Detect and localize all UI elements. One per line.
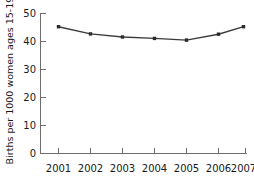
data-point-2006 xyxy=(217,33,220,36)
data-line-series-0 xyxy=(59,27,244,40)
x-tick-label-2003: 2003 xyxy=(110,163,135,174)
data-point-2002 xyxy=(89,32,92,35)
data-point-2001 xyxy=(57,25,60,28)
y-axis-ticks xyxy=(41,14,46,126)
data-point-2003 xyxy=(121,35,124,38)
x-tick-label-2006: 2006 xyxy=(206,163,231,174)
x-tick-label-2002: 2002 xyxy=(78,163,103,174)
y-tick-label-20: 20 xyxy=(23,92,36,103)
y-tick-label-0: 0 xyxy=(30,148,36,159)
data-point-2007 xyxy=(242,25,245,28)
x-tick-label-2001: 2001 xyxy=(46,163,71,174)
x-tick-label-2007: 2007 xyxy=(231,163,254,174)
x-axis-ticks xyxy=(59,148,246,153)
y-tick-label-30: 30 xyxy=(23,64,36,75)
chart-container: Births per 1000 women ages 15-19 50 40 3… xyxy=(0,0,254,178)
x-tick-label-2004: 2004 xyxy=(142,163,167,174)
x-axis-tick-labels: 2001 2002 2003 2004 2005 2006 2007 xyxy=(46,163,254,174)
y-tick-label-10: 10 xyxy=(23,120,36,131)
data-point-2005 xyxy=(185,38,188,41)
y-tick-label-50: 50 xyxy=(23,8,36,19)
y-axis-tick-labels: 50 40 30 20 10 0 xyxy=(23,8,36,159)
y-tick-label-40: 40 xyxy=(23,36,36,47)
line-chart-plot: 50 40 30 20 10 0 2001 2002 2003 2004 200… xyxy=(0,0,254,178)
data-markers-series-0 xyxy=(57,25,245,42)
data-point-2004 xyxy=(153,37,156,40)
x-tick-label-2005: 2005 xyxy=(174,163,199,174)
